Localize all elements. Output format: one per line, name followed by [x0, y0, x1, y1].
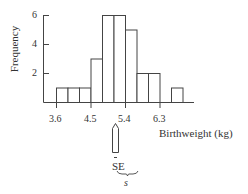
histogram-bar — [137, 74, 149, 103]
y-tick-4: 4 — [32, 39, 37, 49]
mean-pointer-icon — [113, 124, 119, 153]
histogram-bar — [172, 88, 184, 103]
se-label: SE — [112, 161, 125, 171]
x-tick-5-4: 5.4 — [118, 114, 131, 124]
histogram-bar — [80, 88, 92, 103]
y-axis-label: Frequency — [9, 19, 19, 79]
histogram-bar — [68, 88, 80, 103]
s-label: s — [124, 178, 128, 188]
histogram-bar — [114, 16, 126, 103]
histogram-bar — [57, 88, 69, 103]
y-tick-2: 2 — [32, 68, 37, 78]
x-tick-3-6: 3.6 — [49, 114, 62, 124]
histogram-bar — [149, 74, 161, 103]
x-tick-4-5: 4.5 — [84, 114, 97, 124]
y-tick-6: 6 — [32, 10, 37, 20]
x-tick-6-3: 6.3 — [153, 114, 166, 124]
histogram-bar — [91, 59, 103, 103]
histogram-bar — [103, 16, 115, 103]
histogram-bar — [126, 30, 138, 103]
x-axis-label: Birthweight (kg) — [159, 128, 233, 138]
